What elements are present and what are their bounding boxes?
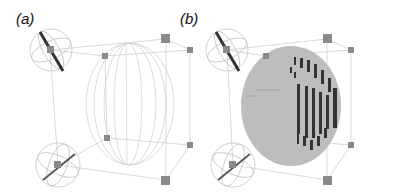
scene-b [176, 0, 393, 195]
panel-a: (a) [0, 0, 196, 195]
handle-top-front[interactable] [102, 53, 108, 59]
rotation-gizmo-bottom-icon[interactable] [34, 141, 81, 189]
bounding-cube [50, 39, 190, 180]
handle-bottom-right[interactable] [348, 142, 354, 148]
handle-bottom-inner[interactable] [104, 135, 110, 141]
voxel-sphere [241, 46, 341, 166]
handle-bottom-front[interactable] [161, 176, 170, 185]
scene-a [0, 0, 196, 195]
panel-b: (b) [176, 0, 372, 195]
handle-top-back[interactable] [323, 34, 332, 43]
handle-top-front[interactable] [263, 53, 269, 59]
handle-top-back[interactable] [161, 34, 170, 43]
handle-bottom-front[interactable] [323, 176, 332, 185]
rotation-gizmo-bottom-icon[interactable] [209, 141, 256, 189]
handle-top-right[interactable] [348, 47, 354, 53]
rotation-gizmo-top-icon[interactable] [204, 28, 250, 72]
wireframe-sphere [86, 43, 174, 165]
